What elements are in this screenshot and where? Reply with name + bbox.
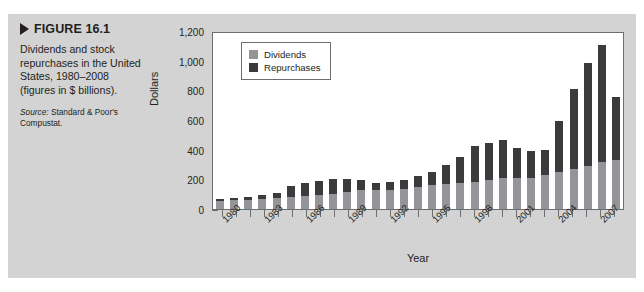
bar-segment-dividends: [584, 166, 592, 209]
x-tick-mark: [250, 210, 251, 217]
figure-caption-text: Dividends and stock repurchases in the U…: [20, 43, 142, 97]
chart-container: Dollars 02004006008001,0001,200 Dividend…: [154, 18, 630, 274]
bar-segment-repurchases: [301, 183, 309, 196]
bar-segment-dividends: [555, 172, 563, 209]
legend-swatch: [249, 50, 258, 59]
x-axis-title: Year: [212, 252, 624, 264]
bar-segment-dividends: [301, 196, 309, 209]
bar-column: [372, 33, 380, 209]
bar-segment-repurchases: [428, 172, 436, 185]
bar-segment-repurchases: [584, 63, 592, 165]
bar-segment-dividends: [287, 197, 295, 209]
bar-column: [357, 33, 365, 209]
bar-column: [598, 33, 606, 209]
chart-legend: DividendsRepurchases: [241, 42, 331, 80]
x-tick-mark: [418, 210, 419, 217]
bar-segment-dividends: [471, 182, 479, 209]
x-tick-mark: [460, 210, 461, 217]
x-axis-tick-labels: 1980198319861989199219951998200120042007: [212, 217, 624, 251]
bar-column: [570, 33, 578, 209]
bar-segment-repurchases: [513, 148, 521, 179]
x-tick-mark: [544, 210, 545, 217]
bar-segment-repurchases: [386, 182, 394, 190]
bar-segment-dividends: [541, 175, 549, 209]
figure-panel: FIGURE 16.1 Dividends and stock repurcha…: [8, 14, 636, 278]
figure-heading: FIGURE 16.1: [20, 22, 148, 36]
bar-segment-dividends: [343, 192, 351, 209]
bar-segment-dividends: [499, 178, 507, 209]
bar-column: [541, 33, 549, 209]
y-tick-label: 0: [198, 205, 204, 216]
y-tick-label: 400: [187, 145, 204, 156]
bar-segment-repurchases: [612, 97, 620, 160]
bar-column: [471, 33, 479, 209]
bar-column: [513, 33, 521, 209]
bar-segment-dividends: [456, 183, 464, 209]
bar-segment-dividends: [428, 185, 436, 209]
y-tick-label: 800: [187, 86, 204, 97]
bar-segment-repurchases: [570, 89, 578, 169]
bar-segment-dividends: [414, 187, 422, 209]
bar-segment-repurchases: [442, 165, 450, 184]
bar-column: [485, 33, 493, 209]
y-tick-label: 200: [187, 175, 204, 186]
bar-segment-repurchases: [343, 179, 351, 192]
bar-segment-dividends: [244, 200, 252, 209]
bar-segment-repurchases: [499, 140, 507, 179]
x-tick-mark: [376, 210, 377, 217]
bar-column: [612, 33, 620, 209]
bar-column: [386, 33, 394, 209]
x-tick-mark: [334, 210, 335, 217]
x-tick-mark: [292, 210, 293, 217]
legend-swatch: [249, 63, 258, 72]
legend-item: Dividends: [249, 48, 321, 61]
bar-column: [442, 33, 450, 209]
bar-segment-dividends: [216, 201, 224, 209]
plot-area: DividendsRepurchases: [212, 32, 624, 210]
x-tick-mark: [586, 210, 587, 217]
y-tick-label: 1,000: [179, 56, 204, 67]
bar-segment-repurchases: [414, 176, 422, 187]
bar-segment-repurchases: [541, 150, 549, 176]
bar-segment-repurchases: [471, 146, 479, 182]
legend-label: Dividends: [264, 49, 306, 60]
bar-segment-dividends: [329, 194, 337, 209]
legend-item: Repurchases: [249, 61, 321, 74]
bar-column: [400, 33, 408, 209]
figure-caption-block: FIGURE 16.1 Dividends and stock repurcha…: [20, 22, 148, 270]
bar-column: [414, 33, 422, 209]
bar-column: [230, 33, 238, 209]
bar-segment-dividends: [513, 178, 521, 209]
bar-segment-repurchases: [357, 180, 365, 190]
bar-column: [216, 33, 224, 209]
x-tick-mark: [502, 210, 503, 217]
bar-column: [456, 33, 464, 209]
bar-column: [343, 33, 351, 209]
bar-segment-repurchases: [329, 179, 337, 194]
bar-segment-repurchases: [527, 151, 535, 178]
bar-segment-repurchases: [485, 143, 493, 180]
bar-segment-dividends: [598, 162, 606, 209]
bar-segment-dividends: [386, 190, 394, 209]
bar-column: [584, 33, 592, 209]
bar-segment-dividends: [258, 199, 266, 209]
bar-segment-repurchases: [555, 121, 563, 172]
legend-label: Repurchases: [264, 62, 321, 73]
y-axis-title: Dollars: [148, 72, 160, 106]
y-axis-ticks: 02004006008001,0001,200: [160, 18, 204, 232]
bar-segment-repurchases: [372, 183, 380, 190]
bar-segment-repurchases: [287, 186, 295, 197]
bar-segment-repurchases: [315, 181, 323, 196]
figure-source: Source: Standard & Poor's Compustat.: [20, 107, 136, 127]
y-tick-label: 600: [187, 116, 204, 127]
bar-segment-repurchases: [598, 45, 606, 162]
bar-column: [555, 33, 563, 209]
bar-column: [499, 33, 507, 209]
bar-column: [428, 33, 436, 209]
figure-number-label: FIGURE 16.1: [34, 22, 110, 36]
bar-segment-repurchases: [400, 180, 408, 189]
y-tick-label: 1,200: [179, 27, 204, 38]
bar-column: [527, 33, 535, 209]
source-label: Source:: [20, 107, 49, 117]
bar-segment-dividends: [372, 190, 380, 209]
